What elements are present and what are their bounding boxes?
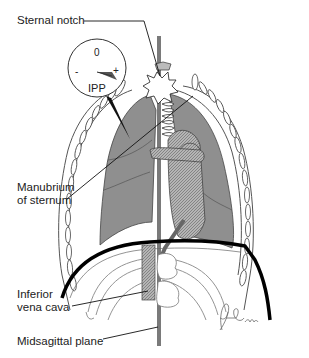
artist-signature bbox=[220, 304, 258, 330]
diaphragm bbox=[62, 241, 270, 320]
label-midsagittal-plane: Midsagittal plane bbox=[17, 335, 103, 348]
label-manubrium-line1: Manubrium bbox=[17, 181, 75, 194]
gauge-zero: 0 bbox=[94, 47, 100, 58]
label-sternal-notch: Sternal notch bbox=[17, 14, 85, 27]
gauge-minus: - bbox=[75, 66, 78, 77]
label-ivc-line2: vena cava bbox=[17, 301, 69, 314]
label-manubrium-line2: of sternum bbox=[17, 194, 71, 207]
gauge-plus: + bbox=[113, 65, 119, 76]
gauge-label: IPP bbox=[88, 82, 106, 94]
label-ivc-line1: Inferior bbox=[17, 288, 53, 301]
left-lung bbox=[100, 95, 156, 245]
